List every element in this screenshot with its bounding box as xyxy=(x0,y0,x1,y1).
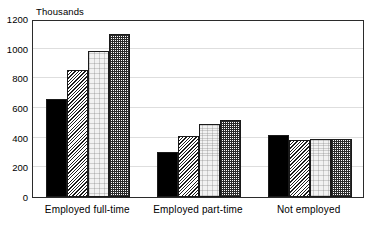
x-axis-category-label: Employed part-time xyxy=(153,205,242,215)
bar xyxy=(88,51,109,197)
bar xyxy=(178,136,199,197)
plot-area xyxy=(33,21,363,197)
bar xyxy=(268,135,289,197)
y-axis-tick-label: 400 xyxy=(12,134,28,144)
plot-area-frame xyxy=(32,20,364,198)
y-axis-tick-label: 1000 xyxy=(7,45,28,55)
bar xyxy=(157,152,178,197)
gridline xyxy=(33,48,363,49)
y-axis-unit-caption: Thousands xyxy=(36,7,84,17)
bar xyxy=(199,124,220,197)
x-axis-category-label: Employed full-time xyxy=(45,205,130,215)
y-axis-tick-label: 800 xyxy=(12,75,28,85)
bar-chart-figure: Thousands 020040060080010001200 Employed… xyxy=(0,0,371,237)
bar xyxy=(46,99,67,197)
bar xyxy=(310,139,331,197)
y-axis-tick-labels: 020040060080010001200 xyxy=(0,20,28,198)
bar xyxy=(331,139,352,197)
y-axis-tick-label: 1200 xyxy=(7,15,28,25)
y-axis-tick-label: 200 xyxy=(12,164,28,174)
y-axis-tick-label: 600 xyxy=(12,104,28,114)
bar xyxy=(220,120,241,197)
bar xyxy=(289,140,310,197)
y-axis-tick-label: 0 xyxy=(23,193,28,203)
bar xyxy=(109,34,130,197)
bar xyxy=(67,70,88,197)
x-axis-category-label: Not employed xyxy=(277,205,341,215)
